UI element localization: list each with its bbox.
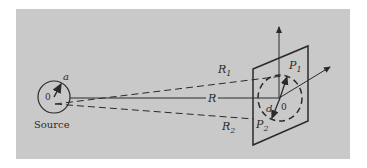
distance-R-label: R bbox=[207, 92, 216, 105]
distance-R1-label: R1 bbox=[217, 63, 231, 78]
point-P1-label: P1 bbox=[288, 59, 302, 74]
oblique-axis bbox=[279, 67, 330, 98]
diameter-label: d bbox=[266, 103, 272, 114]
source-origin-label: 0 bbox=[45, 92, 51, 102]
coherence-diagram: 0 a Source R R1 R2 d 0 P1 P2 bbox=[0, 0, 367, 168]
source-radius-arrow bbox=[54, 84, 61, 97]
source-radius-label: a bbox=[63, 71, 69, 82]
ray-R1 bbox=[55, 76, 283, 104]
source-caption: Source bbox=[34, 119, 70, 130]
diameter-arrow-down bbox=[272, 98, 280, 118]
screen-origin-label: 0 bbox=[281, 102, 287, 112]
distance-R2-label: R2 bbox=[221, 120, 235, 135]
point-P2-label: P2 bbox=[255, 118, 269, 133]
ray-R2 bbox=[55, 104, 254, 119]
